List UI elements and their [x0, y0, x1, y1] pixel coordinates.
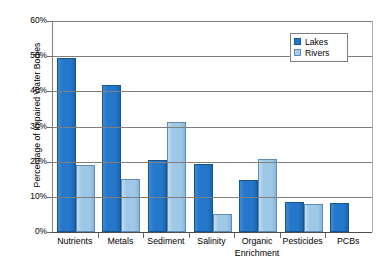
y-axis-tick-mark	[47, 56, 52, 57]
legend-label-lakes: Lakes	[305, 37, 328, 47]
x-axis-tick-mark	[189, 233, 190, 238]
x-axis-line	[52, 232, 372, 233]
gridline	[53, 162, 372, 163]
x-axis-tick-mark	[98, 233, 99, 238]
x-axis-tick-label: OrganicEnrichment	[234, 236, 280, 259]
y-axis-tick-label: 10%	[21, 192, 47, 201]
bar-chart: Percentage of Impaired Water Bodies 0%10…	[0, 0, 386, 269]
bar-lakes-nutrients	[57, 58, 76, 232]
lakes-swatch-icon	[294, 38, 301, 45]
y-axis-tick-mark	[47, 232, 52, 233]
bar-lakes-pesticides	[285, 202, 304, 232]
bar-rivers-salinity	[213, 214, 232, 232]
x-axis-tick-label: Sediment	[143, 236, 189, 248]
y-axis-tick-label: 0%	[21, 227, 47, 236]
y-axis-tick-labels: 0%10%20%30%40%50%60%	[17, 0, 47, 269]
bar-lakes-salinity	[194, 164, 213, 232]
bar-rivers-organic-enrichment	[258, 159, 277, 232]
y-axis-tick-label: 30%	[21, 122, 47, 131]
y-axis-tick-mark	[47, 127, 52, 128]
x-axis-tick-label: PCBs	[325, 236, 371, 248]
x-axis-tick-mark	[325, 233, 326, 238]
bar-rivers-metals	[121, 179, 140, 232]
gridline	[53, 197, 372, 198]
y-axis-tick-mark	[47, 162, 52, 163]
bar-lakes-organic-enrichment	[239, 180, 258, 232]
x-axis-tick-label: Pesticides	[280, 236, 326, 248]
x-axis-tick-mark	[143, 233, 144, 238]
rivers-swatch-icon	[294, 49, 301, 56]
x-axis-tick-label: Salinity	[189, 236, 235, 248]
gridline	[53, 21, 372, 22]
x-axis-tick-mark	[234, 233, 235, 238]
legend-label-rivers: Rivers	[305, 48, 329, 58]
x-axis-tick-labels: NutrientsMetalsSedimentSalinityOrganicEn…	[52, 236, 372, 269]
gridline	[53, 127, 372, 128]
bar-lakes-metals	[102, 85, 121, 232]
y-axis-tick-mark	[47, 91, 52, 92]
bar-rivers-sediment	[167, 122, 186, 232]
gridline	[53, 91, 372, 92]
y-axis-tick-mark	[47, 21, 52, 22]
y-axis-tick-mark	[47, 197, 52, 198]
legend-item-lakes: Lakes	[294, 36, 344, 47]
y-axis-tick-label: 60%	[21, 16, 47, 25]
y-axis-tick-label: 20%	[21, 157, 47, 166]
bar-lakes-pcbs	[330, 203, 349, 232]
bar-rivers-pesticides	[304, 204, 323, 232]
legend-item-rivers: Rivers	[294, 47, 344, 58]
x-axis-tick-label: Nutrients	[52, 236, 98, 248]
bar-rivers-nutrients	[76, 165, 95, 232]
x-axis-tick-mark	[280, 233, 281, 238]
y-axis-tick-label: 40%	[21, 86, 47, 95]
y-axis-tick-label: 50%	[21, 51, 47, 60]
chart-legend: Lakes Rivers	[290, 33, 348, 62]
x-axis-tick-label: Metals	[98, 236, 144, 248]
